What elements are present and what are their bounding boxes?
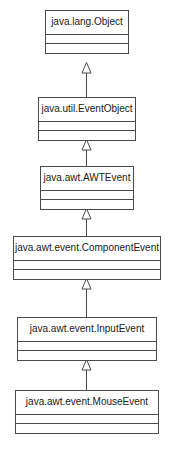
uml-class-name: java.awt.event.InputEvent	[18, 318, 156, 342]
uml-class-diagram: java.lang.Object java.util.EventObject j…	[0, 0, 173, 458]
uml-class-name: java.lang.Object	[46, 11, 128, 35]
uml-operations-compartment	[14, 270, 160, 279]
uml-operations-compartment	[46, 44, 128, 53]
uml-operations-compartment	[16, 424, 158, 433]
uml-class-java-awt-event-componentevent: java.awt.event.ComponentEvent	[13, 236, 161, 280]
uml-attributes-compartment	[14, 261, 160, 270]
uml-class-name: java.util.EventObject	[39, 98, 135, 122]
uml-class-java-awt-event-inputevent: java.awt.event.InputEvent	[17, 317, 157, 361]
uml-attributes-compartment	[41, 191, 133, 200]
uml-attributes-compartment	[18, 342, 156, 351]
uml-class-java-util-eventobject: java.util.EventObject	[38, 97, 136, 141]
generalization-inputevent-to-componentevent	[78, 278, 95, 317]
uml-class-name: java.awt.AWTEvent	[41, 167, 133, 191]
generalization-eventobject-to-object	[78, 62, 95, 97]
uml-attributes-compartment	[39, 122, 135, 131]
uml-class-name: java.awt.event.ComponentEvent	[14, 237, 160, 261]
generalization-componentevent-to-awtevent	[78, 208, 95, 236]
uml-class-java-lang-object: java.lang.Object	[45, 10, 129, 54]
uml-operations-compartment	[18, 351, 156, 360]
uml-operations-compartment	[41, 200, 133, 209]
uml-class-java-awt-event-mouseevent: java.awt.event.MouseEvent	[15, 390, 159, 434]
uml-operations-compartment	[39, 131, 135, 140]
uml-class-name: java.awt.event.MouseEvent	[16, 391, 158, 415]
uml-attributes-compartment	[46, 35, 128, 44]
uml-class-java-awt-awtevent: java.awt.AWTEvent	[40, 166, 134, 210]
generalization-awtevent-to-eventobject	[78, 139, 95, 166]
generalization-mouseevent-to-inputevent	[78, 359, 95, 390]
uml-attributes-compartment	[16, 415, 158, 424]
